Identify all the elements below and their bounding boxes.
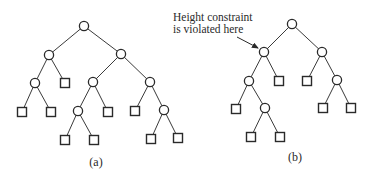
leaf-node-square-icon — [61, 79, 70, 88]
leaf-node-square-icon — [303, 77, 312, 86]
height-violation-annotation: Height constraint is violated here — [173, 11, 258, 48]
violated-internal-node-circle-icon — [259, 47, 268, 56]
leaf-node-square-icon — [90, 136, 99, 145]
leaf-node-square-icon — [319, 104, 328, 113]
internal-node-circle-icon — [79, 21, 88, 30]
leaf-node-square-icon — [276, 133, 285, 142]
tree-edge — [53, 29, 81, 52]
leaf-node-square-icon — [232, 105, 241, 114]
tree-edge — [88, 29, 118, 51]
leaf-node-square-icon — [61, 136, 70, 145]
tree-edge — [267, 112, 278, 132]
internal-node-circle-icon — [30, 78, 39, 87]
tree-edge — [95, 86, 106, 107]
tree-edge — [24, 87, 33, 107]
tree-edge — [253, 112, 263, 132]
tree-edge — [238, 85, 247, 104]
internal-node-circle-icon — [260, 103, 269, 112]
internal-node-circle-icon — [317, 47, 326, 56]
tree-edge — [80, 86, 91, 107]
tree-edge — [267, 27, 288, 48]
leaf-node-square-icon — [347, 104, 356, 113]
tree-edge — [67, 115, 76, 135]
caption-b: (b) — [288, 150, 302, 164]
internal-node-circle-icon — [244, 76, 253, 85]
leaf-node-square-icon — [247, 133, 256, 142]
internal-node-circle-icon — [88, 77, 97, 86]
tree-edge — [80, 115, 91, 135]
internal-node-circle-icon — [73, 106, 82, 115]
tree-edge — [166, 114, 176, 133]
avl-tree-diagram: Height constraint is violated here (a) (… — [0, 0, 376, 178]
caption-a: (a) — [89, 155, 102, 169]
tree-edge — [37, 59, 47, 79]
internal-node-circle-icon — [145, 77, 154, 86]
tree-b — [232, 19, 356, 141]
leaf-node-square-icon — [104, 108, 113, 117]
tree-edge — [152, 86, 162, 106]
tree-edge — [153, 114, 162, 134]
tree-edge — [324, 56, 335, 76]
tree-edge — [51, 59, 62, 79]
internal-node-circle-icon — [116, 49, 125, 58]
leaf-node-square-icon — [147, 135, 156, 144]
internal-node-circle-icon — [332, 75, 341, 84]
tree-edge — [137, 86, 148, 106]
tree-edge — [96, 57, 117, 78]
leaf-node-square-icon — [275, 77, 284, 86]
tree-edge — [37, 87, 48, 107]
internal-node-circle-icon — [44, 50, 53, 59]
leaf-node-square-icon — [131, 107, 140, 116]
arrow-icon — [237, 37, 258, 48]
leaf-node-square-icon — [174, 134, 183, 143]
leaf-node-square-icon — [47, 108, 56, 117]
tree-edge — [295, 27, 318, 49]
leaf-node-square-icon — [18, 108, 27, 117]
internal-node-circle-icon — [159, 105, 168, 114]
tree-edge — [339, 84, 349, 103]
tree-edge — [309, 56, 320, 76]
tree-edge — [251, 56, 262, 77]
annotation-line-2: is violated here — [173, 23, 243, 35]
tree-edge — [266, 56, 277, 76]
tree-a — [18, 21, 183, 144]
tree-edge — [325, 84, 335, 103]
internal-node-circle-icon — [287, 19, 296, 28]
tree-edge — [124, 57, 146, 79]
tree-edge — [251, 85, 262, 104]
